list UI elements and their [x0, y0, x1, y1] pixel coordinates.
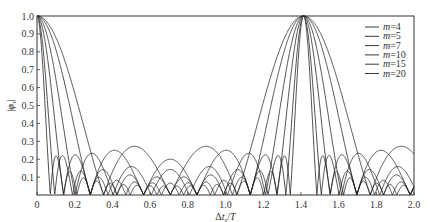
y-tick-label: 1.0 — [22, 11, 35, 22]
series-line-m7 — [37, 16, 414, 195]
x-tick-label: 0.6 — [144, 199, 157, 210]
y-tick-label: 0.4 — [22, 118, 35, 129]
x-tick-label: 1.2 — [257, 199, 270, 210]
x-tick-label: 0.4 — [106, 199, 119, 210]
curves-group — [37, 16, 414, 195]
y-tick-label: 0.2 — [22, 154, 35, 165]
y-axis-label: |φτ| — [5, 99, 18, 111]
y-tick-label: 0.9 — [22, 28, 35, 39]
x-tick-label: 1.0 — [219, 199, 232, 210]
chart: 0.10.20.30.40.50.60.70.80.91.0 00.20.40.… — [0, 0, 430, 222]
x-tick-label: 0.2 — [68, 199, 81, 210]
x-tick-label: 1.6 — [332, 199, 345, 210]
legend: m=4m=5m=7m=10m=15m=20 — [365, 21, 406, 79]
legend-label: m=20 — [383, 68, 406, 79]
plot-frame — [37, 16, 414, 195]
series-line-m5 — [37, 16, 414, 195]
y-tick-label: 0.6 — [22, 82, 35, 93]
x-axis-label: Δts/T — [215, 211, 237, 222]
series-line-m15 — [37, 16, 414, 195]
y-tick-label: 0.1 — [22, 172, 35, 183]
series-line-m10 — [37, 16, 414, 195]
x-axis-label-text: Δts/T — [215, 211, 237, 222]
x-tick-label: 1.8 — [370, 199, 383, 210]
y-tick-label: 0.3 — [22, 136, 35, 147]
x-tick-label: 1.4 — [295, 199, 308, 210]
series-line-m4 — [37, 16, 414, 195]
y-tick-label: 0.8 — [22, 46, 35, 57]
series-line-m20 — [37, 16, 414, 195]
x-tick-label: 0 — [35, 199, 40, 210]
y-tick-label: 0.7 — [22, 64, 35, 75]
x-tick-label: 2.0 — [408, 199, 421, 210]
x-tick-label: 0.8 — [182, 199, 195, 210]
y-tick-label: 0.5 — [22, 100, 35, 111]
